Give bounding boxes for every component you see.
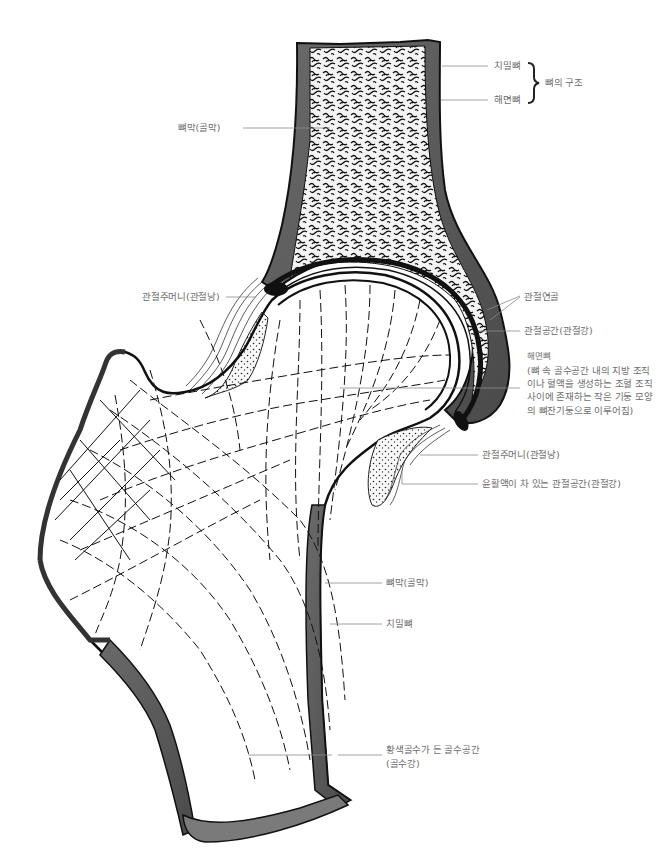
label-periosteum-bottom: 뼈막(골막): [386, 576, 428, 589]
label-compact-bone-top: 치밀뼈: [494, 59, 520, 72]
hip-joint-diagram: 치밀뼈 해면뼈 뼈의 구조 뼈막(골막) 관절주머니(관절낭) 관절연골 관절공…: [0, 0, 657, 862]
fat-pad-right: [368, 427, 432, 506]
label-marrow-cavity-sub: (골수강): [386, 757, 419, 770]
label-articular-cartilage: 관절연골: [524, 290, 559, 303]
label-periosteum-top: 뼈막(골막): [178, 121, 220, 134]
trochanter-crosshatch: [55, 390, 175, 560]
label-spongy-bone-detail-desc: (뼈 속 골수공간 내의 지방 조직이나 혈액을 생성하는 조혈 조직 사이에 …: [527, 364, 655, 417]
label-joint-capsule-left: 관절주머니(관절낭): [142, 290, 219, 303]
label-bone-structure: 뼈의 구조: [545, 76, 583, 89]
bone-illustration: [0, 0, 657, 862]
label-joint-capsule-right: 관절주머니(관절낭): [482, 448, 559, 461]
brace-icon: [528, 63, 539, 103]
fat-pad-left: [205, 312, 268, 398]
label-spongy-bone-detail-title: 해면뼈: [527, 350, 550, 363]
label-joint-cavity: 관절공간(관절강): [524, 324, 593, 337]
label-marrow-cavity: 황색골수가 든 골수공간: [386, 743, 480, 756]
pelvis-bone: [262, 40, 509, 434]
label-spongy-bone-top: 해면뼈: [494, 93, 520, 106]
label-compact-bone-bottom: 치밀뼈: [386, 617, 412, 630]
label-synovial-cavity: 윤활액이 차 있는 관절공간(관절강): [482, 477, 621, 490]
